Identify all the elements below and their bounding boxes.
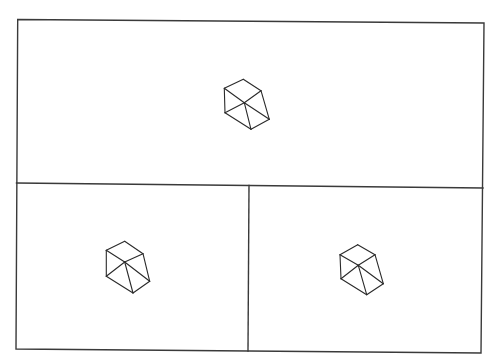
background bbox=[0, 0, 494, 363]
vertical-divider bbox=[248, 186, 249, 352]
diagram-canvas bbox=[0, 0, 494, 363]
glyph-edge bbox=[224, 88, 225, 112]
